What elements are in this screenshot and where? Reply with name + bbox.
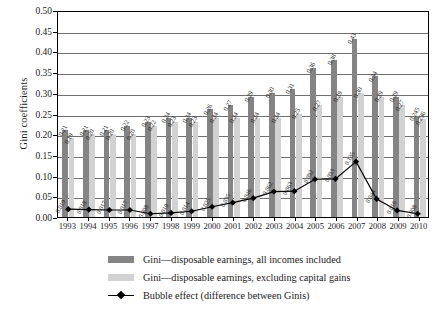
y-axis-tick: 0.00 — [14, 213, 52, 223]
x-axis-tick: 2008 — [369, 221, 386, 231]
x-axis-tickmark — [315, 218, 316, 221]
legend-item: Gini—disposable earnings, all incomes in… — [108, 250, 350, 268]
x-axis-tick: 1993 — [59, 221, 76, 231]
y-axis-tick: 0.30 — [14, 89, 52, 99]
line-marker-diamond — [65, 206, 71, 212]
line-marker-diamond — [168, 210, 174, 216]
x-axis-tick: 1995 — [100, 221, 117, 231]
line-marker-diamond — [312, 176, 318, 182]
x-axis-tick: 2005 — [307, 221, 324, 231]
legend-label: Bubble effect (difference between Ginis) — [143, 290, 310, 301]
x-axis-tickmark — [398, 218, 399, 221]
legend-item: Gini—disposable earnings, excluding capi… — [108, 268, 350, 286]
line-marker-diamond — [86, 207, 92, 213]
line-marker-diamond — [209, 204, 215, 210]
x-axis-tick: 1999 — [183, 221, 200, 231]
x-axis-tickmark — [419, 218, 420, 221]
line-marker-diamond — [271, 188, 277, 194]
line-marker-diamond — [127, 207, 133, 213]
line-marker-diamond — [291, 188, 297, 194]
x-axis-tick: 2000 — [203, 221, 220, 231]
chart-figure: Gini coefficients 0.000.050.100.150.200.… — [0, 0, 437, 310]
x-axis-tickmark — [357, 218, 358, 221]
y-axis-tick: 0.15 — [14, 151, 52, 161]
y-axis-tick: 0.40 — [14, 47, 52, 57]
legend-label: Gini—disposable earnings, all incomes in… — [143, 254, 341, 265]
legend-line-marker-icon — [108, 291, 134, 300]
x-axis-tickmark — [171, 218, 172, 221]
legend-item: Bubble effect (difference between Ginis) — [108, 286, 350, 304]
x-axis-tickmark — [150, 218, 151, 221]
x-axis-tick: 2009 — [389, 221, 406, 231]
y-axis-tick: 0.45 — [14, 27, 52, 37]
x-axis-tick: 2007 — [348, 221, 365, 231]
line-marker-diamond — [189, 208, 195, 214]
x-axis-tickmark — [88, 218, 89, 221]
line-marker-diamond — [250, 195, 256, 201]
line-marker-diamond — [415, 211, 421, 217]
x-axis-tickmark — [233, 218, 234, 221]
y-axis-tick: 0.25 — [14, 110, 52, 120]
x-axis-tickmark — [253, 218, 254, 221]
x-axis-tick: 2003 — [265, 221, 282, 231]
x-axis-tick: 1994 — [79, 221, 96, 231]
x-axis-tick: 1996 — [121, 221, 138, 231]
chart-legend: Gini—disposable earnings, all incomes in… — [108, 250, 350, 304]
x-axis-tickmark — [212, 218, 213, 221]
x-axis-tickmark — [274, 218, 275, 221]
line-marker-diamond — [374, 196, 380, 202]
line-marker-diamond — [230, 200, 236, 206]
x-axis-tickmark — [295, 218, 296, 221]
x-axis-tick: 2001 — [224, 221, 241, 231]
x-axis-tick: 1998 — [162, 221, 179, 231]
y-axis-tickmark — [53, 218, 57, 219]
line-marker-diamond — [147, 211, 153, 217]
y-axis-tick: 0.10 — [14, 172, 52, 182]
x-axis-tickmark — [129, 218, 130, 221]
x-axis-tick: 2004 — [286, 221, 303, 231]
x-axis-tick: 2002 — [245, 221, 262, 231]
line-series-bubble-effect — [58, 12, 428, 217]
x-axis-tickmark — [67, 218, 68, 221]
x-axis-tickmark — [336, 218, 337, 221]
legend-color-swatch — [108, 256, 134, 263]
legend-color-swatch — [108, 274, 134, 281]
x-axis-tickmark — [191, 218, 192, 221]
x-axis-tick: 2010 — [410, 221, 427, 231]
line-marker-diamond — [106, 207, 112, 213]
x-axis-tick: 1997 — [141, 221, 158, 231]
y-axis-tick: 0.05 — [14, 192, 52, 202]
x-axis-tickmark — [377, 218, 378, 221]
legend-label: Gini—disposable earnings, excluding capi… — [143, 272, 350, 283]
y-axis-tick: 0.35 — [14, 68, 52, 78]
x-axis-tickmark — [109, 218, 110, 221]
y-axis-tick: 0.50 — [14, 6, 52, 16]
y-axis-tick: 0.20 — [14, 130, 52, 140]
x-axis-tick: 2006 — [327, 221, 344, 231]
plot-area: 0.210.190.210.200.210.200.220.200.230.22… — [57, 11, 429, 218]
line-marker-diamond — [394, 207, 400, 213]
